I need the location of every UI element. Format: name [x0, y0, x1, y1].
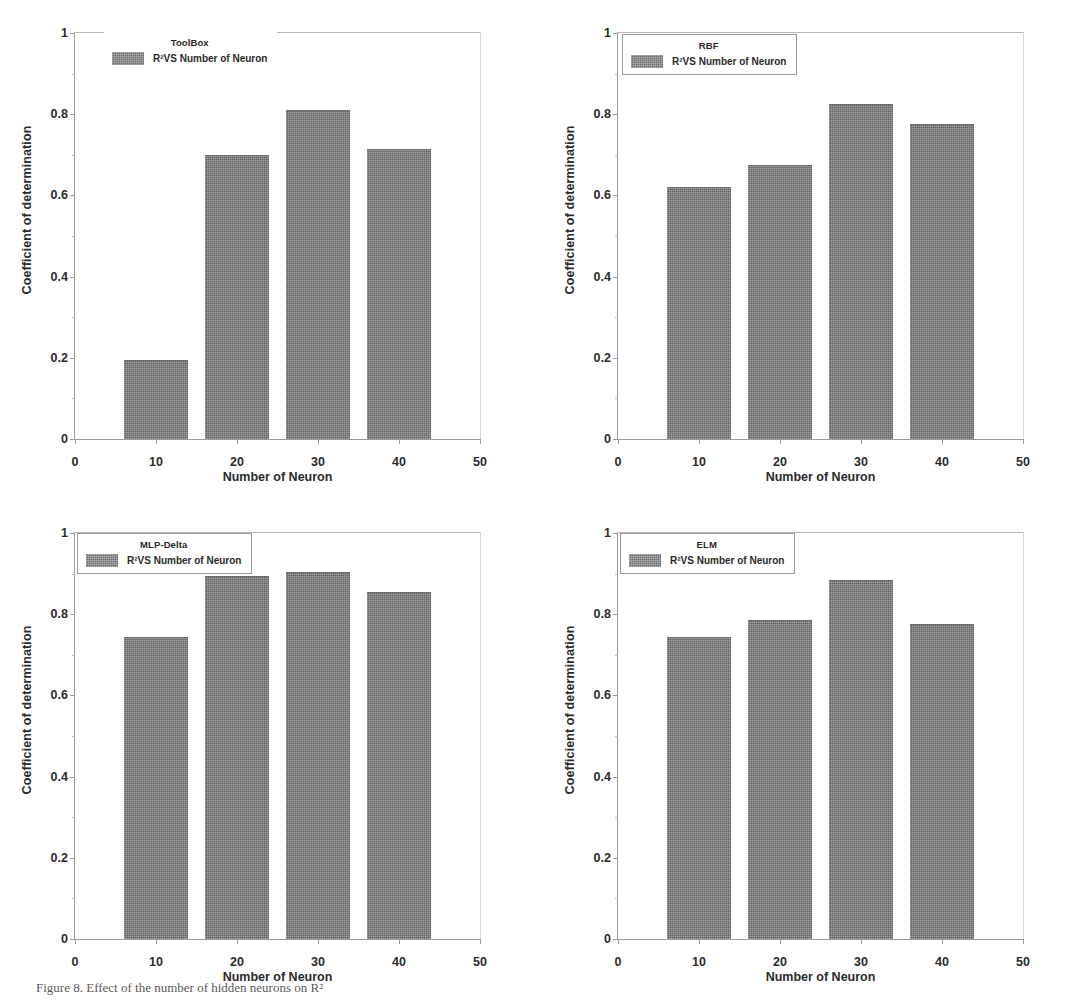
x-tick-mark: [480, 939, 481, 944]
chart-legend: ELMR²VS Number of Neuron: [620, 533, 795, 574]
y-axis-label-text: Coefficient of determination: [563, 126, 577, 295]
x-tick-label: 10: [692, 455, 706, 469]
y-tick-label: 0.2: [51, 851, 68, 865]
bar: [667, 187, 732, 439]
plot-inner: 00.20.40.60.8101020304050: [618, 533, 1023, 939]
bar: [286, 572, 351, 939]
y-tick-label: 0: [61, 432, 68, 446]
x-tick-mark: [75, 939, 76, 944]
x-tick-label: 30: [854, 455, 868, 469]
y-axis-label: Coefficient of determination: [14, 500, 40, 920]
bar: [748, 620, 813, 939]
y-tick-label: 0.4: [594, 770, 611, 784]
bar-series: [618, 33, 1023, 439]
y-axis-label: Coefficient of determination: [557, 500, 583, 920]
x-tick-label: 30: [854, 955, 868, 969]
plot-inner: 00.20.40.60.8101020304050: [618, 33, 1023, 439]
y-tick-label: 1: [61, 526, 68, 540]
plot-inner: 00.20.40.60.8101020304050: [75, 33, 480, 439]
x-tick-label: 0: [72, 455, 79, 469]
chart-panel-mlp-delta: Coefficient of determination00.20.40.60.…: [0, 500, 542, 1000]
bar: [367, 592, 432, 939]
x-tick-label: 10: [149, 455, 163, 469]
bar: [667, 637, 732, 939]
x-tick-mark: [780, 939, 781, 944]
bar: [205, 155, 270, 439]
bar-series: [75, 533, 480, 939]
x-tick-label: 40: [935, 955, 949, 969]
x-tick-label: 0: [615, 455, 622, 469]
y-tick-label: 0.6: [51, 688, 68, 702]
x-tick-mark: [399, 939, 400, 944]
legend-title: ELM: [629, 539, 784, 550]
legend-swatch-icon: [112, 52, 144, 65]
x-tick-mark: [699, 439, 700, 444]
bar: [124, 637, 189, 939]
bar: [910, 624, 975, 939]
y-tick-label: 0.6: [594, 188, 611, 202]
x-tick-mark: [942, 939, 943, 944]
plot-area: 00.20.40.60.8101020304050: [74, 32, 481, 440]
x-tick-mark: [237, 939, 238, 944]
legend-entry: R²VS Number of Neuron: [112, 52, 267, 65]
plot-area: 00.20.40.60.8101020304050: [74, 532, 481, 940]
x-tick-mark: [1023, 939, 1024, 944]
x-tick-mark: [1023, 439, 1024, 444]
x-tick-label: 20: [230, 955, 244, 969]
legend-entry-label: R²VS Number of Neuron: [670, 555, 784, 566]
legend-title: ToolBox: [112, 37, 267, 48]
x-tick-mark: [699, 939, 700, 944]
y-tick-label: 0.2: [594, 851, 611, 865]
legend-swatch-icon: [86, 554, 118, 567]
x-tick-label: 30: [311, 955, 325, 969]
y-axis-label-text: Coefficient of determination: [20, 626, 34, 795]
x-tick-label: 20: [773, 955, 787, 969]
x-tick-label: 20: [773, 455, 787, 469]
figure-caption: Figure 8. Effect of the number of hidden…: [36, 980, 1036, 996]
panel-grid: Coefficient of determination00.20.40.60.…: [0, 0, 1085, 970]
legend-entry-label: R²VS Number of Neuron: [153, 53, 267, 64]
y-tick-label: 0.2: [594, 351, 611, 365]
bar: [205, 576, 270, 939]
x-tick-label: 50: [1016, 455, 1030, 469]
y-tick-label: 0.2: [51, 351, 68, 365]
figure-sheet: Coefficient of determination00.20.40.60.…: [0, 0, 1085, 1003]
x-tick-label: 10: [149, 955, 163, 969]
legend-entry: R²VS Number of Neuron: [86, 554, 241, 567]
plot-inner: 00.20.40.60.8101020304050: [75, 533, 480, 939]
y-tick-label: 0.4: [51, 270, 68, 284]
legend-title: MLP-Delta: [86, 539, 241, 550]
x-tick-mark: [156, 939, 157, 944]
y-axis-label-text: Coefficient of determination: [20, 126, 34, 295]
y-tick-label: 1: [61, 26, 68, 40]
y-tick-label: 0.6: [594, 688, 611, 702]
y-tick-label: 0.8: [51, 607, 68, 621]
y-tick-label: 0: [604, 932, 611, 946]
x-tick-mark: [318, 439, 319, 444]
chart-panel-rbf: Coefficient of determination00.20.40.60.…: [543, 0, 1085, 500]
chart-panel-elm: Coefficient of determination00.20.40.60.…: [543, 500, 1085, 1000]
x-tick-mark: [237, 439, 238, 444]
x-tick-mark: [618, 439, 619, 444]
legend-entry-label: R²VS Number of Neuron: [127, 555, 241, 566]
x-tick-label: 0: [615, 955, 622, 969]
x-tick-mark: [780, 439, 781, 444]
legend-entry: R²VS Number of Neuron: [631, 55, 786, 68]
x-tick-label: 50: [1016, 955, 1030, 969]
x-tick-mark: [942, 439, 943, 444]
bar: [367, 149, 432, 439]
legend-swatch-icon: [631, 55, 663, 68]
y-tick-label: 1: [604, 526, 611, 540]
legend-entry-label: R²VS Number of Neuron: [672, 56, 786, 67]
x-tick-mark: [399, 439, 400, 444]
y-tick-label: 0: [604, 432, 611, 446]
x-tick-mark: [75, 439, 76, 444]
x-tick-label: 40: [392, 955, 406, 969]
bar: [910, 124, 975, 439]
x-tick-mark: [618, 939, 619, 944]
plot-area: 00.20.40.60.8101020304050: [617, 532, 1024, 940]
legend-entry: R²VS Number of Neuron: [629, 554, 784, 567]
x-tick-label: 30: [311, 455, 325, 469]
x-axis-label: Number of Neuron: [74, 470, 481, 484]
y-tick-label: 0.4: [594, 270, 611, 284]
